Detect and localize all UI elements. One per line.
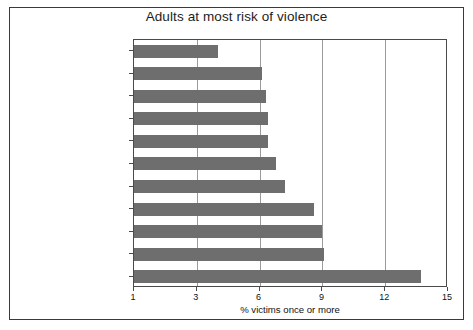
bar: [134, 203, 314, 216]
y-tick-mark: [129, 163, 133, 164]
bar: [134, 157, 276, 170]
bar: [134, 90, 266, 103]
chart-title: Adults at most risk of violence: [0, 9, 473, 24]
y-tick-mark: [129, 118, 133, 119]
plot-area: [133, 39, 447, 287]
x-axis-tick-label: 6: [239, 292, 279, 302]
bar: [134, 248, 324, 261]
bar-row: [134, 265, 446, 288]
y-tick-mark: [129, 73, 133, 74]
bar: [134, 112, 268, 125]
bar-row: [134, 175, 446, 198]
y-tick-mark: [129, 95, 133, 96]
x-axis-tick-label: 9: [301, 292, 341, 302]
bar-row: [134, 40, 446, 63]
bar-row: [134, 153, 446, 176]
bar: [134, 270, 421, 283]
x-tick-mark: [196, 287, 197, 291]
x-tick-mark: [447, 287, 448, 291]
bar-row: [134, 63, 446, 86]
bar: [134, 225, 322, 238]
bar-row: [134, 85, 446, 108]
bar-row: [134, 130, 446, 153]
bar-row: [134, 198, 446, 221]
x-axis-tick-label: 3: [176, 292, 216, 302]
bar-row: [134, 108, 446, 131]
chart-figure: Adults at most risk of violence 13691215…: [0, 0, 473, 330]
x-axis-tick-label: 1: [113, 292, 153, 302]
bar-row: [134, 220, 446, 243]
y-tick-mark: [129, 140, 133, 141]
y-tick-mark: [129, 50, 133, 51]
bar: [134, 67, 262, 80]
y-tick-mark: [129, 208, 133, 209]
x-tick-mark: [133, 287, 134, 291]
y-tick-mark: [129, 276, 133, 277]
x-axis-tick-label: 15: [427, 292, 467, 302]
x-tick-mark: [384, 287, 385, 291]
x-tick-mark: [259, 287, 260, 291]
x-axis-tick-label: 12: [364, 292, 404, 302]
bar: [134, 45, 218, 58]
bar: [134, 135, 268, 148]
y-tick-mark: [129, 186, 133, 187]
bar-row: [134, 243, 446, 266]
x-axis-label: % victims once or more: [133, 304, 447, 315]
bar: [134, 180, 285, 193]
y-tick-mark: [129, 253, 133, 254]
x-tick-mark: [321, 287, 322, 291]
y-tick-mark: [129, 231, 133, 232]
